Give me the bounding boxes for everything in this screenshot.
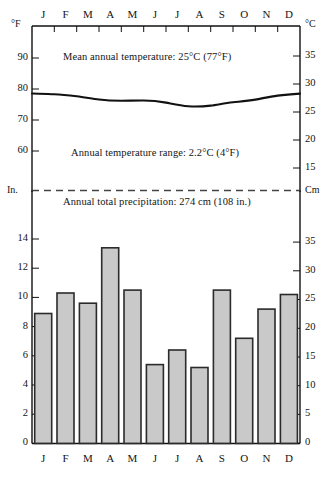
- bar-nov: [258, 309, 275, 443]
- inches-tick-12: 12: [4, 261, 28, 272]
- centimeters-tick-0: 0: [305, 436, 310, 447]
- month-label-top-apr: A: [101, 8, 119, 20]
- inches-tick-6: 6: [4, 349, 28, 360]
- celsius-ticks: [293, 56, 300, 168]
- month-label-bottom-jun: J: [146, 452, 164, 464]
- inches-tick-4: 4: [4, 378, 28, 389]
- inches-tick-14: 14: [4, 232, 28, 243]
- bar-feb: [57, 293, 74, 443]
- chart-canvas: [0, 0, 332, 478]
- month-label-top-may: M: [124, 8, 142, 20]
- precipitation-bars: [35, 248, 298, 444]
- month-label-bottom-dec: D: [280, 452, 298, 464]
- chart-svg: [0, 0, 332, 478]
- celsius-tick-30: 30: [305, 77, 316, 88]
- temperature-curve: [32, 94, 300, 107]
- month-label-top-feb: F: [57, 8, 75, 20]
- bar-jul: [169, 350, 186, 443]
- celsius-tick-20: 20: [305, 133, 316, 144]
- month-label-top-jul: J: [168, 8, 186, 20]
- bar-apr: [102, 248, 119, 444]
- centimeters-tick-25: 25: [305, 292, 316, 303]
- bar-jan: [35, 314, 52, 444]
- centimeters-tick-35: 35: [305, 235, 316, 246]
- month-label-top-jun: J: [146, 8, 164, 20]
- top-month-ticks: [54, 26, 277, 32]
- centimeters-tick-5: 5: [305, 407, 310, 418]
- fahrenheit-axis-label: °F: [11, 18, 21, 29]
- total-precipitation-annotation: Annual total precipitation: 274 cm (108 …: [63, 196, 251, 207]
- month-label-bottom-nov: N: [258, 452, 276, 464]
- centimeters-tick-15: 15: [305, 350, 316, 361]
- celsius-tick-35: 35: [305, 49, 316, 60]
- celsius-tick-15: 15: [305, 161, 316, 172]
- month-label-bottom-oct: O: [235, 452, 253, 464]
- fahrenheit-ticks: [32, 58, 39, 151]
- month-label-bottom-feb: F: [57, 452, 75, 464]
- celsius-tick-25: 25: [305, 105, 316, 116]
- celsius-axis-label: °C: [305, 18, 316, 29]
- centimeters-axis-label: Cm: [305, 184, 319, 195]
- centimeters-tick-20: 20: [305, 321, 316, 332]
- inches-tick-0: 0: [4, 436, 28, 447]
- bar-dec: [280, 295, 297, 444]
- month-label-top-aug: A: [191, 8, 209, 20]
- mean-temperature-annotation: Mean annual temperature: 25°C (77°F): [63, 51, 231, 62]
- bar-jun: [146, 365, 163, 444]
- fahrenheit-tick-80: 80: [4, 82, 28, 93]
- centimeters-tick-30: 30: [305, 264, 316, 275]
- inches-axis-label: In.: [7, 184, 18, 195]
- bar-sep: [213, 290, 230, 443]
- month-label-top-nov: N: [258, 8, 276, 20]
- climograph-chart: °F °C In. Cm 90 80 70 60 35 30 25 20 15 …: [0, 0, 332, 478]
- month-label-top-sep: S: [213, 8, 231, 20]
- month-label-top-jan: J: [34, 8, 52, 20]
- fahrenheit-tick-60: 60: [4, 144, 28, 155]
- month-label-bottom-mar: M: [79, 452, 97, 464]
- bar-oct: [236, 338, 253, 443]
- month-label-bottom-aug: A: [191, 452, 209, 464]
- month-label-bottom-apr: A: [101, 452, 119, 464]
- fahrenheit-tick-90: 90: [4, 51, 28, 62]
- month-label-top-oct: O: [235, 8, 253, 20]
- month-label-top-mar: M: [79, 8, 97, 20]
- bar-may: [124, 290, 141, 443]
- month-label-bottom-jul: J: [168, 452, 186, 464]
- centimeters-tick-10: 10: [305, 379, 316, 390]
- bar-mar: [79, 303, 96, 443]
- temperature-range-annotation: Annual temperature range: 2.2°C (4°F): [71, 147, 239, 158]
- inches-tick-8: 8: [4, 320, 28, 331]
- month-label-bottom-jan: J: [34, 452, 52, 464]
- month-label-top-dec: D: [280, 8, 298, 20]
- inches-tick-2: 2: [4, 407, 28, 418]
- precipitation-panel: [32, 191, 300, 444]
- month-label-bottom-sep: S: [213, 452, 231, 464]
- month-label-bottom-may: M: [124, 452, 142, 464]
- bar-aug: [191, 368, 208, 444]
- fahrenheit-tick-70: 70: [4, 113, 28, 124]
- inches-tick-10: 10: [4, 290, 28, 301]
